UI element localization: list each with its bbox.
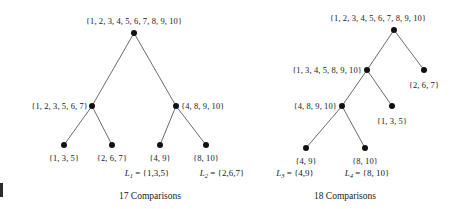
- right-tree-caption: 18 Comparisons: [314, 191, 376, 201]
- right-tree-node-label: {4, 8, 9, 10}: [294, 101, 337, 111]
- left-tree-node-L-n2: [173, 103, 179, 109]
- page-corner-mark: [0, 183, 3, 197]
- right-tree-node-R-n4: [389, 103, 395, 109]
- right-tree-node-label: {2, 6, 7}: [409, 80, 439, 90]
- left-tree-node-L-leaf4: [203, 142, 209, 148]
- left-tree-edge: [176, 106, 206, 145]
- right-tree-edge: [367, 70, 392, 106]
- list-label-L3: L3 = {4,9}: [276, 168, 314, 178]
- left-tree-edge: [64, 106, 92, 145]
- right-tree-node-R-n2: [421, 67, 427, 73]
- right-tree-node-label: {1, 2, 3, 4, 5, 6, 7, 8, 9, 10}: [330, 13, 426, 23]
- right-tree-node-label: {1, 3, 5}: [377, 116, 407, 126]
- left-tree-node-label: {1, 2, 3, 4, 5, 6, 7, 8, 9, 10}: [86, 16, 182, 26]
- left-tree-node-L-leaf2: [109, 142, 115, 148]
- right-tree-node-R-n3: [339, 103, 345, 109]
- left-tree-edge: [92, 106, 112, 145]
- left-tree-node-label: {1, 3, 5}: [49, 153, 79, 163]
- right-tree-edge: [342, 106, 365, 148]
- right-tree-node-label: {4, 9}: [295, 156, 317, 166]
- left-tree-edge: [160, 106, 176, 145]
- right-tree-edge: [306, 106, 342, 148]
- left-tree-node-L-n1: [89, 103, 95, 109]
- right-tree-node-label: {8, 10}: [352, 156, 378, 166]
- left-tree-edge: [92, 33, 134, 106]
- left-tree-node-label: {4, 8, 9, 10}: [181, 101, 224, 111]
- left-tree-node-label: {4, 9}: [149, 153, 171, 163]
- list-label-L2: L2 = {2,6,7}: [200, 168, 244, 178]
- right-tree-node-label: {1, 3, 4, 5, 8, 9, 10}: [292, 65, 362, 75]
- left-tree-node-label: {1, 2, 3, 5, 6, 7}: [31, 101, 88, 111]
- left-tree-caption: 17 Comparisons: [119, 191, 181, 201]
- figure-canvas: {1, 2, 3, 4, 5, 6, 7, 8, 9, 10}{1, 2, 3,…: [0, 0, 458, 209]
- left-tree-node-L-root: [131, 30, 137, 36]
- right-tree-node-R-root: [391, 27, 397, 33]
- left-tree-node-label: {8, 10}: [193, 153, 219, 163]
- right-tree-edge: [367, 30, 394, 70]
- left-tree-node-L-leaf3: [157, 142, 163, 148]
- list-label-L1: L1 = {1,3,5}: [125, 168, 169, 178]
- right-tree-node-R-leaf1: [303, 145, 309, 151]
- right-tree-node-R-leaf2: [362, 145, 368, 151]
- right-tree-edge: [342, 70, 367, 106]
- list-label-L4: L4 = {8, 10}: [345, 168, 389, 178]
- right-tree-node-R-n1: [364, 67, 370, 73]
- right-tree-edge: [394, 30, 424, 70]
- left-tree-node-L-leaf1: [61, 142, 67, 148]
- left-tree-node-label: {2, 6, 7}: [97, 153, 127, 163]
- left-tree-edge: [134, 33, 176, 106]
